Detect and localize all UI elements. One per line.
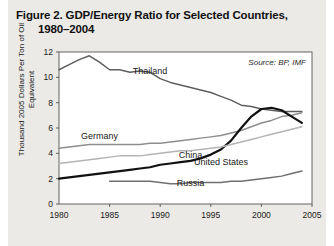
x-tick-label: 2000 (252, 210, 271, 220)
x-tick-label: 2005 (303, 210, 322, 220)
y-tick-label: 12 (44, 47, 54, 57)
x-tick-label: 1995 (201, 210, 220, 220)
y-tick-label: 6 (48, 123, 53, 133)
x-tick-label: 1990 (151, 210, 170, 220)
y-tick-label: 10 (44, 72, 54, 82)
source-note: Source: BP, IMF (248, 58, 307, 67)
series-label-thailand: Thailand (133, 66, 168, 76)
x-tick-label: 1985 (100, 210, 119, 220)
x-tick-label: 1980 (50, 210, 69, 220)
series-label-united-states: United States (194, 157, 249, 167)
series-label-germany: Germany (81, 131, 119, 141)
y-tick-label: 0 (48, 199, 53, 209)
y-tick-label: 4 (48, 148, 53, 158)
line-chart: 024681012198019851990199520002005 Thaila… (0, 0, 334, 246)
y-tick-label: 2 (48, 174, 53, 184)
figure-container: Figure 2. GDP/Energy Ratio for Selected … (0, 0, 334, 246)
y-tick-label: 8 (48, 98, 53, 108)
y-axis-label: Thousand 2005 Dollars Per Ton of Oil Equ… (17, 20, 36, 160)
series-label-russia: Russia (177, 178, 205, 188)
chart-area: Thousand 2005 Dollars Per Ton of Oil Equ… (0, 0, 334, 246)
